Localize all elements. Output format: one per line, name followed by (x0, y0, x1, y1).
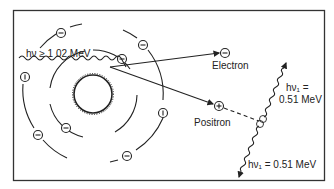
annihilation-photon-up-label-2: 0.51 MeV (279, 94, 322, 105)
pair-production-diagram: hν ≥ 1 02 MeV Electron Positron hν₁ = 0.… (0, 0, 334, 189)
orbital-electron-4 (21, 73, 30, 82)
incident-photon-label: hν ≥ 1 02 MeV (26, 48, 91, 59)
annihilation-photon-up-label-1: hν₁ = (286, 82, 309, 93)
annihilation-photon-down-label: hν₁ = 0.51 MeV (248, 159, 316, 170)
positron-particle (215, 102, 224, 111)
orbital-electron-1 (57, 29, 66, 38)
electron-label: Electron (212, 60, 249, 71)
annihilation-point (257, 116, 267, 128)
orbital-electron-8 (123, 152, 132, 161)
electron-particle (221, 49, 230, 58)
orbital-electron-6 (62, 124, 71, 133)
positron-track (110, 67, 213, 104)
orbital-electron-7 (34, 131, 43, 140)
orbital-electron-5 (159, 109, 168, 118)
annihilation-photon-up-wave (264, 63, 286, 117)
positron-label: Positron (194, 117, 231, 128)
nucleus (73, 74, 114, 115)
orbital-electron-2 (139, 41, 148, 50)
